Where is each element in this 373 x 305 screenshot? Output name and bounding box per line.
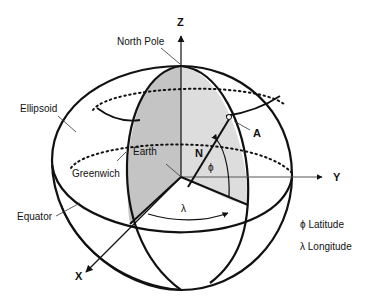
- north-pole-label: North Pole: [117, 36, 165, 47]
- ellipsoid-label: Ellipsoid: [20, 103, 57, 114]
- point-a-marker: [227, 115, 232, 120]
- lambda-arc: [148, 213, 228, 220]
- earth-leader: [117, 152, 126, 161]
- lambda-symbol: λ: [300, 241, 305, 252]
- ellipsoid-diagram: Z Y X North Pole Ellipsoid Earth Greenwi…: [0, 0, 373, 305]
- legend-latitude: ϕ Latitude: [300, 219, 344, 230]
- z-axis-label: Z: [177, 16, 184, 28]
- phi-label: ϕ: [208, 162, 214, 173]
- legend-longitude: λ Longitude: [300, 241, 352, 252]
- y-axis-label: Y: [333, 171, 341, 183]
- meridian-plane-right: [181, 66, 248, 205]
- longitude-text: Longitude: [308, 241, 352, 252]
- phi-symbol: ϕ: [300, 219, 306, 230]
- latitude-text: Latitude: [308, 219, 344, 230]
- x-axis-label: X: [75, 270, 83, 282]
- earth-label: Earth: [133, 146, 157, 157]
- lambda-label: λ: [181, 203, 186, 214]
- greenwich-label: Greenwich: [72, 168, 120, 179]
- equator-label: Equator: [17, 211, 53, 222]
- north-pole-leader: [161, 48, 180, 64]
- a-leader: [234, 121, 250, 130]
- point-a-label: A: [253, 127, 261, 139]
- normal-label: N: [195, 147, 203, 159]
